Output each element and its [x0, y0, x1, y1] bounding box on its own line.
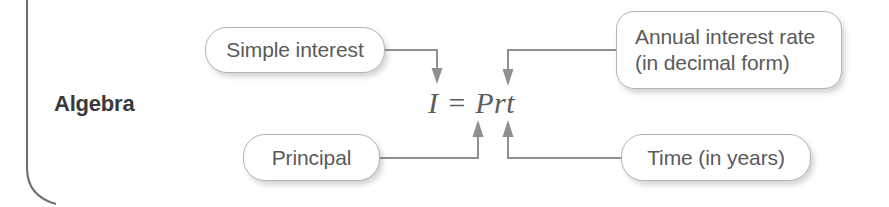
callout-annual-interest-rate-label: Annual interest rate (in decimal form)	[635, 24, 815, 75]
callout-annual-interest-rate[interactable]: Annual interest rate (in decimal form)	[616, 11, 842, 89]
callout-time[interactable]: Time (in years)	[621, 134, 811, 181]
callout-simple-interest-label: Simple interest	[226, 37, 363, 63]
connector-principal	[380, 136, 478, 158]
formula-simple-interest: I = Prt	[428, 86, 538, 120]
arrowhead-down-r	[503, 69, 514, 86]
connector-simple-interest	[385, 50, 437, 70]
arrowhead-up-P	[473, 120, 484, 137]
connector-annual-rate	[508, 50, 616, 70]
algebra-formula-diagram: Algebra I = Prt Simple interest Annual i…	[0, 0, 889, 207]
callout-time-label: Time (in years)	[647, 145, 785, 171]
arrowhead-up-t	[503, 120, 514, 137]
callout-principal-label: Principal	[272, 145, 352, 171]
section-label-algebra: Algebra	[54, 91, 135, 117]
panel-left-edge-rule	[27, 0, 56, 204]
arrowhead-down-I	[432, 68, 443, 84]
connector-time	[508, 136, 621, 158]
callout-principal[interactable]: Principal	[243, 134, 380, 181]
callout-simple-interest[interactable]: Simple interest	[205, 27, 385, 73]
